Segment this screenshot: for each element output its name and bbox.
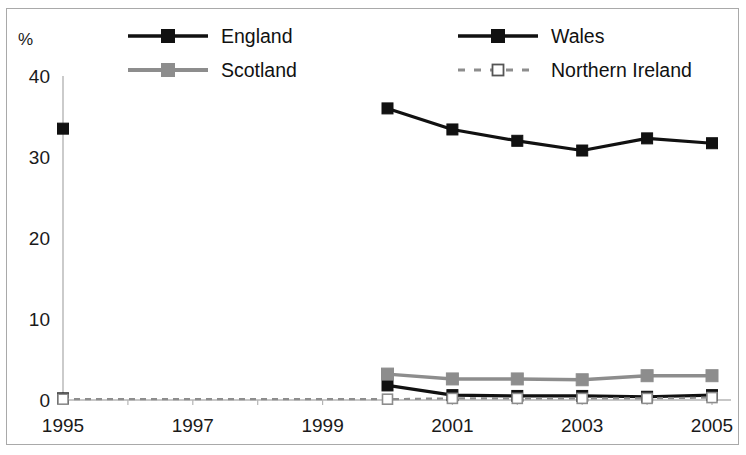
legend-item-wales[interactable]: Wales — [458, 25, 605, 47]
data-point-marker — [511, 373, 523, 385]
data-point-marker — [641, 370, 653, 382]
data-point-marker — [512, 135, 523, 146]
line-chart: % 010203040 199519971999200120032005 Eng… — [0, 0, 746, 455]
x-tick-label: 1995 — [42, 415, 84, 436]
legend-swatch-marker — [162, 30, 175, 43]
data-point-marker — [382, 380, 393, 391]
y-tick-label: 30 — [29, 147, 50, 168]
x-tick-label: 2003 — [561, 415, 603, 436]
y-axis-unit-label: % — [18, 30, 33, 49]
data-point-marker — [382, 103, 393, 114]
data-point-marker — [707, 393, 717, 403]
series-layer — [58, 103, 719, 404]
y-tick-label: 10 — [29, 309, 50, 330]
data-point-marker — [707, 138, 718, 149]
data-point-marker — [576, 374, 588, 386]
data-point-marker — [642, 133, 653, 144]
chart-legend: EnglandWalesScotlandNorthern Ireland — [128, 25, 692, 81]
legend-label: Northern Ireland — [551, 59, 692, 81]
legend-swatch-marker — [492, 30, 505, 43]
legend-item-northern-ireland[interactable]: Northern Ireland — [458, 59, 692, 81]
series-england — [58, 103, 718, 156]
data-point-marker — [58, 394, 68, 404]
y-tick-label: 0 — [39, 390, 50, 411]
y-axis-tick-labels: 010203040 — [29, 66, 50, 411]
series-northern-ireland — [58, 393, 717, 405]
x-tick-label: 1999 — [301, 415, 343, 436]
x-tick-label: 2001 — [431, 415, 473, 436]
data-point-marker — [446, 373, 458, 385]
legend-swatch-marker — [493, 65, 504, 76]
y-tick-label: 40 — [29, 66, 50, 87]
legend-swatch-marker — [162, 64, 175, 77]
legend-label: Wales — [551, 25, 605, 47]
data-point-marker — [642, 393, 652, 403]
data-point-marker — [382, 368, 394, 380]
legend-label: Scotland — [221, 59, 297, 81]
data-point-marker — [447, 124, 458, 135]
y-tick-label: 20 — [29, 228, 50, 249]
series-line — [388, 108, 713, 150]
data-point-marker — [58, 123, 69, 134]
data-point-marker — [383, 394, 393, 404]
x-tick-label: 2005 — [691, 415, 733, 436]
data-point-marker — [512, 393, 522, 403]
data-point-marker — [447, 393, 457, 403]
legend-label: England — [221, 25, 293, 47]
data-point-marker — [577, 145, 588, 156]
legend-item-england[interactable]: England — [128, 25, 293, 47]
x-axis-tick-labels: 199519971999200120032005 — [42, 415, 733, 436]
series-scotland — [382, 368, 719, 386]
series-line — [388, 385, 713, 396]
data-point-marker — [706, 370, 718, 382]
data-point-marker — [577, 393, 587, 403]
x-tick-label: 1997 — [172, 415, 214, 436]
legend-item-scotland[interactable]: Scotland — [128, 59, 297, 81]
series-line — [388, 374, 713, 380]
